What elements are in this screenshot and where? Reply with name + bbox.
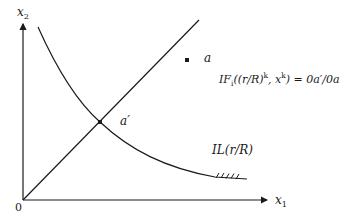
diagram-canvas <box>0 0 348 218</box>
isoquant-diagram: x2 x1 0 a a′ IFi((r/R)k, xk) = 0a′/0a IL… <box>0 0 348 218</box>
point-a <box>185 58 189 62</box>
isoquant-label: IL(r/R) <box>212 144 253 156</box>
x-axis-label: x1 <box>275 194 287 209</box>
ray-from-origin <box>23 20 199 200</box>
point-a-prime <box>98 120 102 124</box>
point-a-label: a <box>204 52 211 64</box>
point-a-prime-label: a′ <box>120 115 130 127</box>
farrell-efficiency-equation: IFi((r/R)k, xk) = 0a′/0a <box>219 72 340 87</box>
y-axis-label: x2 <box>17 6 29 21</box>
origin-label: 0 <box>15 202 22 213</box>
